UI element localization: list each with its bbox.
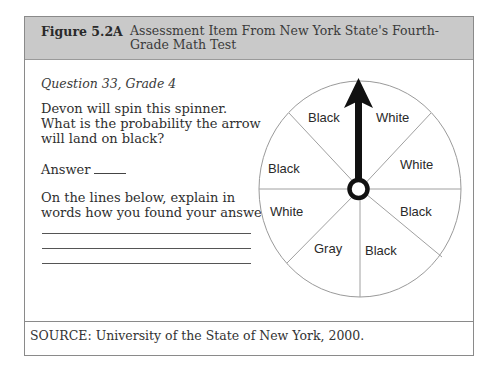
figure-box: Figure 5.2A Assessment Item From New Yor… bbox=[24, 16, 474, 356]
sector-label-right-lower: Black bbox=[400, 204, 432, 219]
sector-label-top-right: White bbox=[376, 110, 409, 125]
sector-label-right-upper: White bbox=[400, 157, 433, 172]
spinner-hub bbox=[350, 180, 368, 198]
sector-label-left-lower: White bbox=[270, 204, 303, 219]
source-note: SOURCE: University of the State of New Y… bbox=[30, 328, 364, 343]
sector-label-left-upper: Black bbox=[268, 161, 300, 176]
source-divider bbox=[25, 321, 473, 322]
sector-label-bottom-left: Gray bbox=[314, 241, 343, 256]
sector-label-bottom-right: Black bbox=[365, 243, 397, 258]
sector-label-top-left: Black bbox=[308, 110, 340, 125]
spinner-diagram: Black White White Black Black Gray White… bbox=[25, 17, 475, 317]
